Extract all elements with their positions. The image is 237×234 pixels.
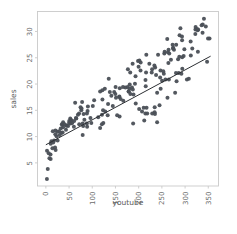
- data-point: [113, 92, 117, 96]
- data-point: [165, 96, 169, 100]
- data-point: [126, 67, 130, 71]
- data-point: [167, 48, 171, 52]
- data-point: [144, 53, 148, 57]
- data-point: [108, 90, 112, 94]
- data-point: [189, 40, 193, 44]
- x-tick-label: 300: [182, 192, 190, 205]
- data-point: [144, 70, 148, 74]
- data-point: [163, 50, 167, 54]
- data-point: [167, 52, 171, 56]
- data-point: [152, 64, 156, 68]
- data-point: [134, 101, 138, 105]
- data-point: [159, 87, 163, 91]
- data-point: [153, 112, 157, 116]
- data-point: [109, 94, 113, 98]
- data-point: [62, 122, 66, 126]
- data-point: [74, 117, 78, 121]
- data-point: [131, 122, 135, 126]
- data-point: [106, 113, 110, 117]
- data-point: [174, 43, 178, 47]
- data-point: [111, 104, 115, 108]
- data-point: [162, 72, 166, 76]
- data-point: [80, 106, 84, 110]
- data-point: [101, 121, 105, 125]
- data-point: [106, 102, 110, 106]
- data-point: [88, 116, 92, 120]
- data-point: [92, 98, 96, 102]
- data-point: [61, 130, 65, 134]
- data-point: [82, 118, 86, 122]
- data-point: [153, 105, 157, 109]
- data-point: [171, 43, 175, 47]
- data-point: [196, 28, 200, 32]
- x-tick-label: 50: [66, 192, 74, 201]
- y-tick-label: 30: [26, 27, 34, 36]
- data-point: [114, 85, 118, 89]
- data-point: [98, 126, 102, 130]
- data-point: [46, 167, 50, 171]
- data-point: [72, 125, 76, 129]
- data-point: [201, 31, 205, 35]
- data-point: [134, 74, 138, 78]
- data-point: [147, 62, 151, 66]
- data-point: [189, 53, 193, 57]
- data-point: [173, 91, 177, 95]
- data-point: [133, 82, 137, 86]
- data-point: [77, 111, 81, 115]
- data-point: [53, 146, 57, 150]
- data-point: [64, 128, 68, 132]
- y-tick-label: 10: [26, 132, 34, 141]
- data-point: [139, 69, 143, 73]
- data-point: [86, 105, 90, 109]
- data-point: [144, 84, 148, 88]
- data-point: [155, 120, 159, 124]
- data-point: [206, 36, 210, 40]
- x-tick-label: 0: [42, 192, 50, 196]
- data-point: [137, 58, 141, 62]
- data-point: [158, 103, 162, 107]
- y-tick-label: 5: [26, 161, 34, 165]
- data-point: [155, 91, 159, 95]
- data-point: [100, 88, 104, 92]
- data-point: [165, 37, 169, 41]
- data-point: [142, 118, 146, 122]
- data-point: [196, 50, 200, 54]
- data-point: [145, 111, 149, 115]
- data-point: [180, 55, 184, 59]
- data-point: [59, 127, 63, 131]
- data-point: [200, 23, 204, 27]
- x-tick-label: 350: [205, 192, 213, 205]
- data-point: [169, 58, 173, 62]
- x-axis-title: youtube: [113, 198, 144, 207]
- data-point: [166, 61, 170, 65]
- data-point: [115, 113, 119, 117]
- data-point: [117, 94, 121, 98]
- data-point: [80, 100, 84, 104]
- data-point: [70, 121, 74, 125]
- data-point: [180, 38, 184, 42]
- y-tick-label: 15: [26, 106, 34, 115]
- data-point: [47, 151, 51, 155]
- data-point: [143, 78, 147, 82]
- data-point: [137, 65, 141, 69]
- data-point: [193, 32, 197, 36]
- data-point: [142, 106, 146, 110]
- data-point: [126, 85, 130, 89]
- data-point: [45, 177, 49, 181]
- y-tick-label: 25: [26, 54, 34, 63]
- chart-figure: 050100150200250300350 51015202530 youtub…: [0, 0, 237, 234]
- data-point: [187, 77, 191, 81]
- data-point: [85, 111, 89, 115]
- data-point: [154, 73, 158, 77]
- data-point: [156, 53, 160, 57]
- data-point: [190, 47, 194, 51]
- data-point: [118, 86, 122, 90]
- data-point: [178, 26, 182, 30]
- data-point: [158, 69, 162, 73]
- data-point: [131, 62, 135, 66]
- data-point: [100, 98, 104, 102]
- data-point: [85, 125, 89, 129]
- x-tick-label: 100: [89, 192, 97, 205]
- data-point: [202, 17, 206, 21]
- data-point: [180, 35, 184, 39]
